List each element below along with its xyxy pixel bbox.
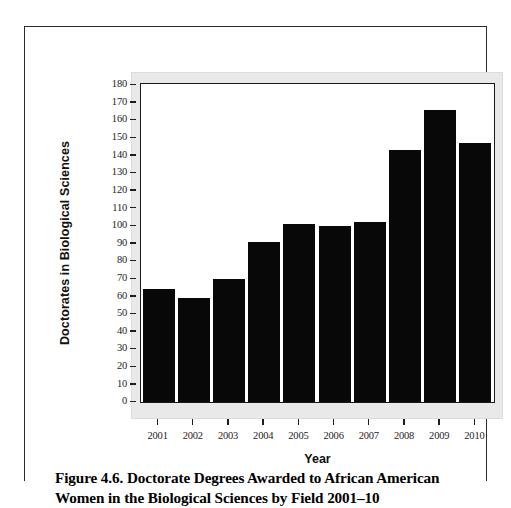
y-tick-mark [130, 154, 136, 155]
x-tick-label: 2008 [386, 430, 421, 441]
x-tick-mark [368, 419, 369, 425]
y-tick-mark [130, 295, 136, 296]
x-tick-2009: 2009 [422, 419, 457, 441]
y-tick-label: 90 [117, 237, 127, 248]
bar-rect [213, 279, 245, 402]
y-tick-label: 40 [117, 325, 127, 336]
x-tick-2003: 2003 [210, 419, 245, 441]
y-tick-mark [130, 401, 136, 402]
x-tick-mark [227, 419, 228, 425]
y-tick-mark [130, 366, 136, 367]
x-tick-mark [333, 419, 334, 425]
x-tick-label: 2001 [140, 430, 175, 441]
figure-box: 1801701601501401301201101009080706050403… [24, 26, 487, 481]
figure-caption-line-1: Figure 4.6. Doctorate Degrees Awarded to… [55, 468, 510, 488]
x-tick-2004: 2004 [246, 419, 281, 441]
x-tick-2007: 2007 [351, 419, 386, 441]
bar-rect [424, 110, 456, 402]
y-tick-mark [130, 383, 136, 384]
x-tick-2002: 2002 [175, 419, 210, 441]
y-tick-mark [130, 172, 136, 173]
y-tick-mark [130, 207, 136, 208]
y-tick-mark [130, 242, 136, 243]
x-tick-mark [438, 419, 439, 425]
y-tick-label: 10 [117, 378, 127, 389]
bar-rect [354, 222, 386, 402]
y-tick-label: 180 [112, 79, 127, 90]
y-tick-label: 20 [117, 361, 127, 372]
y-tick-label: 120 [112, 184, 127, 195]
x-tick-label: 2009 [422, 430, 457, 441]
y-tick-mark [130, 137, 136, 138]
figure-caption: Figure 4.6. Doctorate Degrees Awarded to… [55, 468, 510, 508]
x-tick-2005: 2005 [281, 419, 316, 441]
x-tick-mark [262, 419, 263, 425]
bar-rect [319, 226, 351, 402]
bar-rect [459, 143, 491, 402]
x-tick-label: 2005 [281, 430, 316, 441]
bar-2010 [459, 84, 491, 402]
bar-2004 [248, 84, 280, 402]
bar-rect [178, 298, 210, 402]
y-tick-mark [130, 348, 136, 349]
bar-rect [283, 224, 315, 402]
y-tick-label: 130 [112, 167, 127, 178]
y-tick-label: 80 [117, 255, 127, 266]
y-tick-label: 70 [117, 272, 127, 283]
bar-2005 [283, 84, 315, 402]
bar-rect [143, 289, 175, 402]
y-tick-mark [130, 119, 136, 120]
y-tick-label: 160 [112, 114, 127, 125]
bar-rect [389, 150, 421, 402]
x-tick-2008: 2008 [386, 419, 421, 441]
y-axis-title: Doctorates in Biological Sciences [55, 83, 75, 403]
x-tick-mark [474, 419, 475, 425]
y-tick-mark [130, 101, 136, 102]
y-tick-label: 50 [117, 308, 127, 319]
figure-caption-line-2: Women in the Biological Sciences by Fiel… [55, 488, 510, 508]
x-tick-mark [298, 419, 299, 425]
bar-2002 [178, 84, 210, 402]
bar-2006 [319, 84, 351, 402]
bar-2008 [389, 84, 421, 402]
y-tick-label: 100 [112, 220, 127, 231]
y-tick-label: 0 [122, 396, 127, 407]
x-tick-mark [403, 419, 404, 425]
x-tick-2010: 2010 [457, 419, 492, 441]
x-tick-label: 2004 [246, 430, 281, 441]
y-axis: 1801701601501401301201101009080706050403… [83, 83, 140, 403]
bar-2007 [354, 84, 386, 402]
bar-2009 [424, 84, 456, 402]
y-tick-label: 170 [112, 96, 127, 107]
y-tick-label: 30 [117, 343, 127, 354]
y-tick-label: 60 [117, 290, 127, 301]
y-axis-title-label: Doctorates in Biological Sciences [58, 141, 72, 345]
y-tick-mark [130, 278, 136, 279]
y-tick-mark [130, 260, 136, 261]
x-axis-title: Year [140, 452, 495, 466]
y-tick-label: 110 [112, 202, 127, 213]
y-tick-label: 140 [112, 149, 127, 160]
x-tick-2001: 2001 [140, 419, 175, 441]
x-tick-mark [157, 419, 158, 425]
plot-area [141, 84, 494, 402]
bar-2003 [213, 84, 245, 402]
x-tick-label: 2007 [351, 430, 386, 441]
x-tick-label: 2006 [316, 430, 351, 441]
x-tick-label: 2003 [210, 430, 245, 441]
x-tick-label: 2002 [175, 430, 210, 441]
y-tick-mark [130, 225, 136, 226]
y-tick-label: 150 [112, 132, 127, 143]
y-tick-mark [130, 189, 136, 190]
plot-frame [140, 83, 495, 403]
y-tick-mark [130, 313, 136, 314]
x-tick-2006: 2006 [316, 419, 351, 441]
y-tick-mark [130, 330, 136, 331]
bar-2001 [143, 84, 175, 402]
y-tick-mark [130, 84, 136, 85]
bar-rect [248, 242, 280, 402]
x-tick-label: 2010 [457, 430, 492, 441]
x-tick-mark [192, 419, 193, 425]
